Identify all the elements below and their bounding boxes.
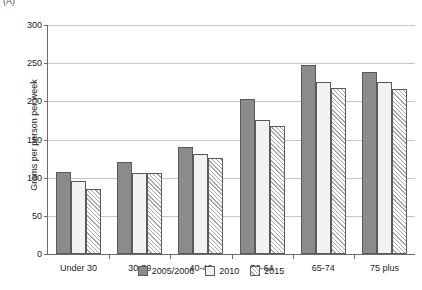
bar: [147, 173, 162, 254]
y-tick-label: 100: [27, 173, 42, 183]
bar: [301, 65, 316, 254]
bar: [392, 89, 407, 254]
bar: [132, 173, 147, 254]
bar: [316, 82, 331, 254]
gridline: [48, 178, 415, 179]
chart-legend: 2005/200620102015: [0, 266, 422, 276]
gridline: [48, 216, 415, 217]
legend-item: 2010: [205, 266, 239, 276]
y-tick-label: 0: [37, 249, 42, 259]
gridline: [48, 101, 415, 102]
y-tick-label: 50: [32, 211, 42, 221]
legend-swatch: [205, 266, 215, 276]
gridline: [48, 25, 415, 26]
panel-letter: (A): [3, 0, 15, 6]
legend-swatch: [250, 266, 260, 276]
x-tick-mark: [232, 254, 233, 259]
plot-area: 050100150200250300 Under 3030-3940-4950-…: [48, 25, 415, 254]
y-tick-mark: [44, 216, 48, 217]
y-tick-mark: [44, 101, 48, 102]
legend-item: 2015: [250, 266, 284, 276]
bar: [56, 172, 71, 254]
bar: [86, 189, 101, 254]
x-tick-mark: [293, 254, 294, 259]
bar: [255, 120, 270, 254]
chart-figure: (A) Grams per person per week 0501001502…: [0, 0, 422, 290]
bar: [208, 158, 223, 254]
y-tick-label: 200: [27, 96, 42, 106]
gridline: [48, 140, 415, 141]
legend-label: 2010: [219, 266, 239, 276]
y-tick-mark: [44, 25, 48, 26]
gridline: [48, 63, 415, 64]
y-tick-label: 250: [27, 58, 42, 68]
legend-item: 2005/2006: [138, 266, 195, 276]
x-tick-mark: [109, 254, 110, 259]
y-tick-label: 150: [27, 135, 42, 145]
legend-swatch: [138, 266, 148, 276]
bar: [178, 147, 193, 254]
y-tick-mark: [44, 63, 48, 64]
y-tick-mark: [44, 140, 48, 141]
legend-label: 2005/2006: [152, 266, 195, 276]
bar: [193, 154, 208, 254]
x-tick-mark: [170, 254, 171, 259]
legend-label: 2015: [264, 266, 284, 276]
bar: [240, 99, 255, 254]
bar: [377, 82, 392, 254]
y-tick-mark: [44, 178, 48, 179]
bar: [331, 88, 346, 254]
bar: [117, 162, 132, 254]
x-tick-mark: [354, 254, 355, 259]
y-tick-mark: [44, 254, 48, 255]
bar: [71, 181, 86, 254]
plot-frame: 050100150200250300 Under 3030-3940-4950-…: [48, 25, 415, 254]
y-tick-label: 300: [27, 20, 42, 30]
bar: [270, 126, 285, 254]
bar: [362, 72, 377, 254]
